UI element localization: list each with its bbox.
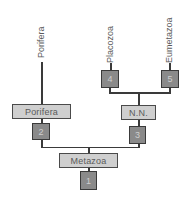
- node-box-1: 1: [80, 171, 97, 190]
- leaf-label-porifera: Porifera: [36, 26, 46, 58]
- connector-2-3-horizontal: [41, 147, 140, 149]
- connector-to-nn: [138, 92, 140, 105]
- node-box-3: 3: [129, 126, 146, 144]
- clade-box-metazoa: Metazoa: [59, 153, 118, 168]
- node-box-5: 5: [161, 70, 179, 88]
- leaf-label-eumetazoa: Eumetazoa: [164, 17, 174, 63]
- node-box-4: 4: [101, 70, 119, 88]
- branch-line-porifera: [41, 62, 43, 104]
- connector-4-5-horizontal: [109, 92, 171, 94]
- leaf-label-placozoa: Placozoa: [105, 26, 115, 63]
- clade-box-porifera: Porifera: [12, 104, 71, 119]
- node-box-2: 2: [32, 123, 50, 140]
- clade-box-nn: N.N.: [121, 105, 156, 120]
